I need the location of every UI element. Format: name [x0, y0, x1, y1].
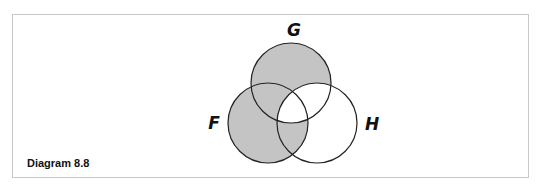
label-h: H [365, 114, 379, 134]
diagram-caption: Diagram 8.8 [27, 157, 89, 169]
label-g: G [287, 20, 301, 40]
label-f: F [208, 113, 220, 133]
shaded-area [228, 43, 357, 163]
